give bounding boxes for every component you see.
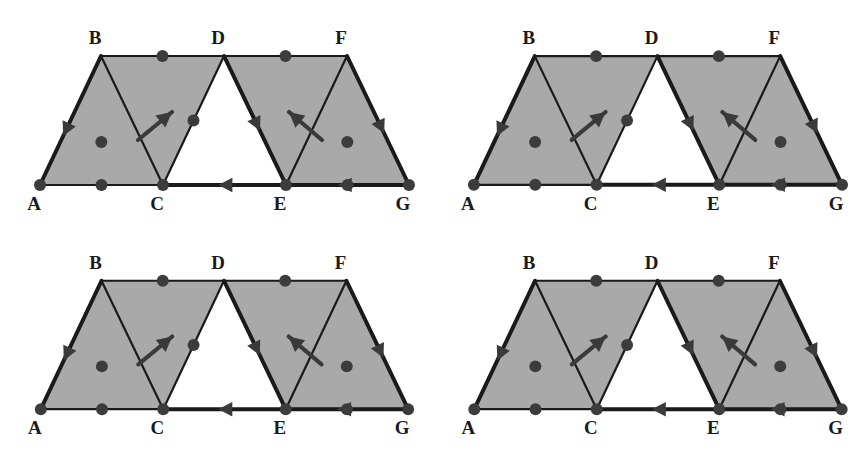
figure-grid: ABCDEFGABCDEFGABCDEFGABCDEFG	[0, 0, 867, 449]
midpoint-dot-BD	[157, 50, 169, 62]
face-dot-ABC	[529, 360, 541, 372]
vertex-label-F: F	[768, 252, 780, 273]
midpoint-dot-BD	[590, 275, 602, 287]
midpoint-dot-EG	[774, 403, 786, 415]
vertex-dot-E	[280, 179, 292, 191]
face-dot-EFG	[774, 360, 786, 372]
midpoint-dot-CD	[621, 114, 633, 126]
vertex-dot-C	[591, 403, 603, 415]
vertex-dot-A	[35, 403, 47, 415]
panel-bottom-right-canvas: ABCDEFG	[434, 225, 867, 449]
panel-top-right-canvas: ABCDEFG	[434, 0, 867, 225]
midpoint-dot-EG	[775, 179, 787, 191]
vertex-label-A: A	[28, 417, 42, 438]
vertex-label-G: G	[395, 417, 410, 438]
vertex-dot-C	[157, 403, 169, 415]
vertex-dot-A	[468, 179, 480, 191]
midpoint-dot-BD	[157, 275, 169, 287]
vertex-dot-A	[34, 179, 46, 191]
vertex-label-G: G	[828, 417, 843, 438]
vertex-label-E: E	[707, 193, 720, 214]
vertex-label-F: F	[335, 252, 347, 273]
vertex-label-B: B	[89, 27, 102, 48]
vertex-dot-A	[468, 403, 480, 415]
midpoint-dot-DF	[713, 275, 725, 287]
vertex-label-E: E	[707, 417, 720, 438]
midpoint-dot-EG	[341, 403, 353, 415]
midpoint-dot-AC	[96, 179, 108, 191]
vertex-dot-G	[836, 403, 848, 415]
vertex-dot-C	[591, 179, 603, 191]
midpoint-dot-DF	[279, 275, 291, 287]
vertex-label-A: A	[461, 193, 475, 214]
vertex-label-C: C	[150, 417, 164, 438]
vertex-dot-G	[836, 179, 848, 191]
panel-bottom-right: ABCDEFG	[434, 225, 867, 449]
panel-bottom-left: ABCDEFG	[0, 225, 434, 449]
vertex-label-G: G	[829, 193, 844, 214]
face-dot-EFG	[341, 360, 353, 372]
panel-top-right: ABCDEFG	[434, 0, 867, 225]
midpoint-dot-AC	[529, 179, 541, 191]
midpoint-dot-EG	[342, 179, 354, 191]
vertex-label-A: A	[461, 417, 475, 438]
vertex-label-C: C	[584, 193, 598, 214]
midpoint-dot-DF	[280, 50, 292, 62]
vertex-label-A: A	[27, 193, 41, 214]
vertex-dot-G	[403, 179, 415, 191]
vertex-label-F: F	[335, 27, 347, 48]
panel-top-left: ABCDEFG	[0, 0, 434, 225]
midpoint-dot-CD	[188, 339, 200, 351]
vertex-dot-E	[280, 403, 292, 415]
vertex-label-B: B	[523, 252, 536, 273]
vertex-label-B: B	[89, 252, 102, 273]
midpoint-dot-AC	[530, 403, 542, 415]
midpoint-dot-AC	[96, 403, 108, 415]
vertex-label-B: B	[522, 27, 535, 48]
vertex-label-G: G	[396, 193, 411, 214]
face-dot-ABC	[96, 360, 108, 372]
vertex-label-D: D	[211, 27, 225, 48]
face-dot-EFG	[775, 136, 787, 148]
midpoint-dot-DF	[713, 50, 725, 62]
vertex-label-C: C	[150, 193, 164, 214]
vertex-label-D: D	[645, 27, 659, 48]
panel-bottom-left-canvas: ABCDEFG	[0, 225, 434, 449]
vertex-label-C: C	[584, 417, 598, 438]
vertex-label-D: D	[211, 252, 225, 273]
midpoint-dot-CD	[621, 339, 633, 351]
vertex-dot-G	[402, 403, 414, 415]
vertex-dot-E	[713, 179, 725, 191]
vertex-dot-E	[713, 403, 725, 415]
midpoint-dot-BD	[590, 50, 602, 62]
face-dot-ABC	[95, 136, 107, 148]
panel-top-left-canvas: ABCDEFG	[0, 0, 434, 225]
vertex-label-E: E	[273, 417, 286, 438]
face-dot-EFG	[341, 136, 353, 148]
vertex-label-F: F	[768, 27, 780, 48]
face-dot-ABC	[529, 136, 541, 148]
vertex-label-D: D	[645, 252, 659, 273]
vertex-dot-C	[157, 179, 169, 191]
midpoint-dot-CD	[188, 115, 200, 127]
vertex-label-E: E	[274, 193, 287, 214]
